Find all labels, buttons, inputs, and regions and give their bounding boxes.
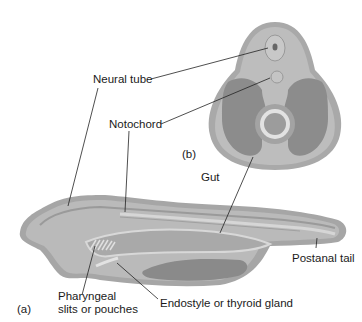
label-gut: Gut [201, 171, 220, 184]
label-endostyle: Endostyle or thyroid gland [160, 297, 293, 310]
label-notochord: Notochord [109, 118, 162, 131]
diagram-artwork [0, 0, 362, 322]
label-pharyngeal-line1: Pharyngeal [58, 290, 116, 303]
panel-b-label: (b) [182, 148, 196, 161]
cross-section [209, 22, 342, 170]
panel-a-label: (a) [17, 303, 31, 316]
label-pharyngeal-line2: slits or pouches [58, 303, 138, 316]
label-postanal-tail: Postanal tail [292, 252, 355, 265]
longitudinal-section [20, 195, 347, 286]
label-neural-tube: Neural tube [93, 73, 152, 86]
chordate-diagram: Neural tube Notochord (b) Gut Postanal t… [0, 0, 362, 322]
